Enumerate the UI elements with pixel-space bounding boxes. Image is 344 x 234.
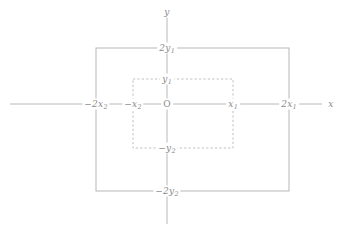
label-outer-top: 2y1: [157, 43, 177, 54]
y-axis-label: y: [162, 7, 171, 18]
x-axis-label: x: [326, 99, 335, 110]
label-inner-top: y1: [160, 74, 174, 85]
outer-rectangle: [96, 48, 289, 191]
label-outer-bottom: −2y2: [153, 186, 180, 197]
label-inner-bottom: −y2: [156, 143, 177, 154]
coordinate-diagram: x y O 2y1 −2y2 −2x2 2x1 y1 −y2 −x2 x1: [0, 0, 344, 234]
diagram-canvas: [0, 0, 344, 234]
label-outer-left: −2x2: [82, 99, 109, 110]
label-outer-right: 2x1: [279, 99, 299, 110]
inner-dashed-rectangle: [133, 79, 233, 148]
label-inner-left: −x2: [122, 99, 143, 110]
origin-label: O: [161, 99, 173, 110]
label-inner-right: x1: [226, 99, 240, 110]
